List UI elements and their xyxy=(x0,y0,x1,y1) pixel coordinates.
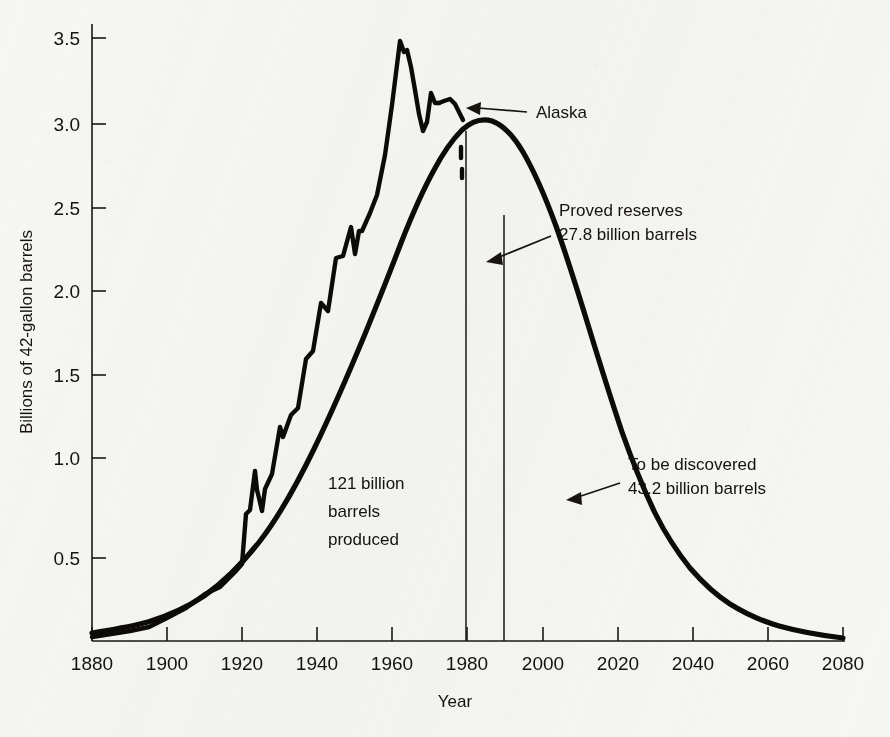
x-tick-label-2020: 2020 xyxy=(597,653,639,674)
annotation-proved-reserves: Proved reserves 27.8 billion barrels xyxy=(486,201,697,265)
production-endpoint-dashes xyxy=(461,147,462,178)
y-axis-ticks xyxy=(92,38,106,558)
annotation-proved-reserves-line-1: Proved reserves xyxy=(559,201,683,220)
annotation-to-be-discovered: To be discovered 43.2 billion barrels xyxy=(566,455,766,505)
y-tick-label-0.5: 0.5 xyxy=(54,548,80,569)
x-tick-label-1980: 1980 xyxy=(446,653,488,674)
y-tick-label-3.5: 3.5 xyxy=(54,28,80,49)
annotation-produced: 121 billion barrels produced xyxy=(328,474,405,549)
x-tick-label-1920: 1920 xyxy=(221,653,263,674)
y-tick-label-1.5: 1.5 xyxy=(54,365,80,386)
annotation-to-be-discovered-line-1: To be discovered xyxy=(628,455,757,474)
y-tick-label-2.5: 2.5 xyxy=(54,198,80,219)
x-tick-label-1900: 1900 xyxy=(146,653,188,674)
annotation-to-be-discovered-line-2: 43.2 billion barrels xyxy=(628,479,766,498)
x-tick-label-2040: 2040 xyxy=(672,653,714,674)
y-tick-label-3.0: 3.0 xyxy=(54,114,80,135)
to-be-discovered-arrowhead xyxy=(566,492,582,505)
y-tick-label-1.0: 1.0 xyxy=(54,448,80,469)
y-axis-tick-labels: 3.5 3.0 2.5 2.0 1.5 1.0 0.5 xyxy=(54,28,80,569)
series-hubbert-fitted-curve xyxy=(92,120,843,638)
to-be-discovered-leader-line xyxy=(578,483,620,497)
x-axis-ticks xyxy=(92,627,843,641)
annotation-produced-line-3: produced xyxy=(328,530,399,549)
alaska-bump-detail xyxy=(439,99,463,120)
reference-lines xyxy=(466,131,504,641)
x-tick-label-2060: 2060 xyxy=(747,653,789,674)
axes xyxy=(92,24,845,641)
annotation-produced-line-1: 121 billion xyxy=(328,474,405,493)
alaska-arrowhead xyxy=(466,102,481,115)
x-axis-title: Year xyxy=(438,692,473,711)
y-axis-title: Billions of 42-gallon barrels xyxy=(17,230,36,434)
chart-figure: 3.5 3.0 2.5 2.0 1.5 1.0 0.5 1880 1900 19… xyxy=(0,0,890,737)
annotation-alaska-label: Alaska xyxy=(536,103,588,122)
y-tick-label-2.0: 2.0 xyxy=(54,281,80,302)
annotation-produced-line-2: barrels xyxy=(328,502,380,521)
alaska-leader-line xyxy=(478,108,527,112)
proved-reserves-arrowhead xyxy=(486,252,503,265)
x-tick-label-1880: 1880 xyxy=(71,653,113,674)
hubbert-curve-chart: 3.5 3.0 2.5 2.0 1.5 1.0 0.5 1880 1900 19… xyxy=(0,0,890,737)
x-tick-label-2080: 2080 xyxy=(822,653,864,674)
x-tick-label-1940: 1940 xyxy=(296,653,338,674)
proved-reserves-leader-line xyxy=(497,236,551,258)
x-tick-label-1960: 1960 xyxy=(371,653,413,674)
annotation-proved-reserves-line-2: 27.8 billion barrels xyxy=(559,225,697,244)
x-tick-label-2000: 2000 xyxy=(522,653,564,674)
x-axis-tick-labels: 1880 1900 1920 1940 1960 1980 2000 2020 … xyxy=(71,653,864,674)
